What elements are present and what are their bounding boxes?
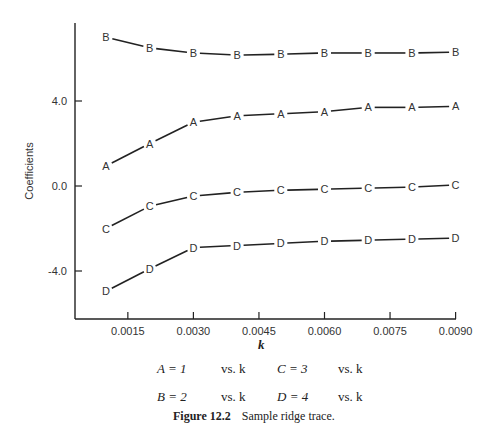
- marker-c: C: [102, 223, 110, 235]
- marker-a: A: [408, 101, 416, 113]
- marker-d: D: [452, 232, 460, 244]
- marker-b: B: [408, 47, 415, 59]
- marker-d: D: [408, 233, 416, 245]
- series-line-d: [287, 242, 318, 243]
- figure-label: Figure 12.2: [173, 409, 231, 423]
- marker-a: A: [452, 100, 460, 112]
- legend-vs-a: vs. k: [221, 361, 246, 377]
- marker-b: B: [277, 48, 284, 60]
- marker-a: A: [146, 138, 154, 150]
- legend-vs-d: vs. k: [338, 389, 363, 405]
- series-line-c: [112, 209, 144, 225]
- marker-d: D: [146, 263, 154, 275]
- marker-b: B: [321, 47, 328, 59]
- series-line-d: [418, 238, 449, 239]
- marker-c: C: [277, 184, 285, 196]
- marker-d: D: [364, 234, 372, 246]
- series-line-d: [200, 246, 231, 247]
- marker-c: C: [452, 179, 460, 191]
- series-line-a: [244, 114, 275, 115]
- series-line-b: [200, 53, 231, 54]
- marker-b: B: [102, 31, 109, 43]
- ridge-trace-chart: 4.00.0-4.00.00150.00300.00450.00600.0075…: [0, 0, 500, 436]
- y-axis-label: Coefficients: [23, 142, 35, 200]
- y-tick-label: 0.0: [52, 180, 67, 192]
- series-line-c: [200, 193, 231, 196]
- series-line-b: [156, 49, 187, 53]
- marker-a: A: [277, 108, 285, 120]
- marker-a: A: [102, 160, 110, 172]
- series-line-d: [331, 240, 362, 241]
- marker-b: B: [190, 47, 197, 59]
- legend-key-a: A = 1: [157, 361, 186, 377]
- series-line-b: [287, 53, 318, 54]
- y-tick-label: -4.0: [48, 265, 67, 277]
- marker-d: D: [233, 240, 241, 252]
- marker-b: B: [146, 42, 153, 54]
- series-line-b: [418, 52, 449, 53]
- marker-a: A: [233, 110, 241, 122]
- series-line-a: [418, 106, 449, 107]
- marker-c: C: [189, 190, 197, 202]
- marker-c: C: [233, 186, 241, 198]
- marker-c: C: [364, 182, 372, 194]
- legend-key-d: D = 4: [277, 389, 308, 405]
- series-line-c: [375, 187, 406, 188]
- figure-title: Sample ridge trace.: [242, 409, 335, 423]
- marker-a: A: [321, 106, 329, 118]
- marker-a: A: [365, 101, 373, 113]
- series-line-c: [287, 189, 318, 190]
- series-line-b: [244, 54, 275, 55]
- x-tick-label: 0.0060: [308, 325, 342, 337]
- marker-c: C: [408, 181, 416, 193]
- marker-c: C: [146, 200, 154, 212]
- legend-vs-b: vs. k: [221, 389, 246, 405]
- series-line-c: [156, 197, 187, 204]
- series-line-d: [112, 272, 144, 288]
- legend-vs-c: vs. k: [338, 361, 363, 377]
- x-tick-label: 0.0075: [373, 325, 407, 337]
- x-tick-label: 0.0090: [439, 325, 473, 337]
- x-tick-label: 0.0030: [177, 325, 211, 337]
- series-line-d: [156, 250, 188, 266]
- marker-d: D: [102, 285, 110, 297]
- series-line-d: [244, 244, 275, 245]
- series-line-a: [156, 125, 188, 141]
- marker-d: D: [189, 242, 197, 254]
- x-tick-label: 0.0015: [111, 325, 145, 337]
- series-line-a: [200, 117, 231, 121]
- legend-key-b: B = 2: [157, 389, 187, 405]
- marker-d: D: [321, 235, 329, 247]
- marker-d: D: [277, 237, 285, 249]
- x-axis-label: k: [258, 337, 265, 353]
- marker-c: C: [321, 183, 329, 195]
- series-line-b: [112, 39, 143, 47]
- series-line-c: [244, 191, 275, 192]
- series-line-c: [418, 185, 449, 186]
- series-line-d: [375, 239, 406, 240]
- y-tick-label: 4.0: [52, 95, 67, 107]
- marker-b: B: [365, 47, 372, 59]
- series-line-a: [112, 146, 144, 163]
- marker-a: A: [190, 116, 198, 128]
- marker-b: B: [233, 49, 240, 61]
- series-line-c: [331, 188, 362, 189]
- figure-caption: Figure 12.2 Sample ridge trace.: [173, 409, 335, 424]
- marker-b: B: [452, 46, 459, 58]
- series-line-a: [287, 112, 318, 113]
- x-tick-label: 0.0045: [242, 325, 276, 337]
- series-line-a: [331, 108, 362, 111]
- legend-key-c: C = 3: [277, 361, 307, 377]
